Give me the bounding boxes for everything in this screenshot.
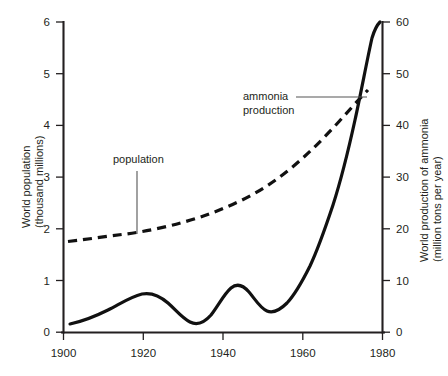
right-axis-title-line1: World production of ammonia xyxy=(418,118,430,262)
left-axis-title-line2: (thousand millions) xyxy=(33,136,45,228)
right-tick-label-0: 0 xyxy=(396,326,402,338)
x-tick-label-1960: 1960 xyxy=(290,347,316,359)
left-tick-label-0: 0 xyxy=(44,326,50,338)
left-tick-label-6: 6 xyxy=(44,16,50,28)
left-tick-label-1: 1 xyxy=(44,275,50,287)
right-tick-label-50: 50 xyxy=(396,68,409,80)
right-tick-label-10: 10 xyxy=(396,275,409,287)
right-tick-label-40: 40 xyxy=(396,119,409,131)
chart-background xyxy=(0,0,448,376)
left-tick-label-4: 4 xyxy=(44,119,51,131)
x-tick-label-1920: 1920 xyxy=(131,347,157,359)
left-tick-label-5: 5 xyxy=(44,68,50,80)
left-axis-title-line1: World population xyxy=(20,146,32,228)
right-tick-label-30: 30 xyxy=(396,171,409,183)
left-axis-title: World population (thousand millions) xyxy=(20,136,45,228)
right-tick-label-20: 20 xyxy=(396,223,409,235)
ammonia-annotation-line1: ammonia xyxy=(243,90,289,102)
x-tick-label-1900: 1900 xyxy=(51,347,77,359)
chart-svg: 6 5 4 3 2 1 0 60 50 40 30 20 10 0 1900 1… xyxy=(0,0,448,376)
chart-figure: 6 5 4 3 2 1 0 60 50 40 30 20 10 0 1900 1… xyxy=(0,0,448,376)
x-tick-label-1980: 1980 xyxy=(370,347,396,359)
right-axis-title-line2: (million tons per year) xyxy=(431,156,443,262)
x-tick-label-1940: 1940 xyxy=(210,347,236,359)
population-annotation-label: population xyxy=(113,153,164,165)
ammonia-annotation-line2: production xyxy=(243,104,294,116)
right-tick-label-60: 60 xyxy=(396,16,409,28)
